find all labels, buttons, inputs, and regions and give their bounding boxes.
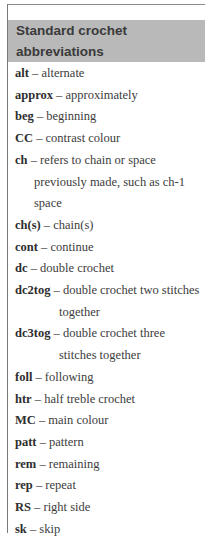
abbreviation: ch (15, 153, 28, 167)
definition: main colour (48, 413, 108, 427)
separator: – (37, 109, 43, 123)
list-item: dc2tog – double crochet two stitches tog… (15, 280, 203, 323)
definition: skip (39, 522, 60, 536)
abbreviation: dc (15, 261, 28, 275)
separator: – (44, 218, 50, 232)
abbreviation: CC (15, 131, 33, 145)
list-item: CC – contrast colour (15, 128, 203, 150)
list-item: sk – skip (15, 519, 203, 540)
list-item: htr – half treble crochet (15, 389, 203, 411)
abbreviation: dc3tog (15, 326, 50, 340)
definition: double crochet two stitches (63, 283, 199, 297)
section-title: Standard crochet abbreviations (16, 20, 166, 62)
abbreviation: rep (15, 478, 33, 492)
abbreviation: htr (15, 392, 32, 406)
top-rule (7, 4, 205, 5)
list-item: MC – main colour (15, 410, 203, 432)
definition-continuation: previously made, such as ch-1 (15, 172, 203, 194)
separator: – (41, 240, 47, 254)
list-item: dc3tog – double crochet three stitches t… (15, 323, 203, 366)
definition: half treble crochet (44, 392, 135, 406)
definition: alternate (41, 66, 84, 80)
definition: beginning (46, 109, 96, 123)
separator: – (31, 153, 37, 167)
list-item: ch(s) – chain(s) (15, 215, 203, 237)
list-item: ch – refers to chain or space previously… (15, 150, 203, 215)
definition: right side (43, 500, 90, 514)
separator: – (56, 88, 62, 102)
list-item: approx – approximately (15, 85, 203, 107)
definition: chain(s) (53, 218, 93, 232)
abbreviation: approx (15, 88, 53, 102)
definition: refers to chain or space (40, 153, 156, 167)
separator: – (35, 392, 41, 406)
abbreviation: ch(s) (15, 218, 41, 232)
abbreviation-list: alt – alternate approx – approximately b… (15, 63, 203, 540)
list-item: rem – remaining (15, 454, 203, 476)
separator: – (31, 261, 37, 275)
list-item: cont – continue (15, 237, 203, 259)
list-item: beg – beginning (15, 106, 203, 128)
list-item: foll – following (15, 367, 203, 389)
list-item: patt – pattern (15, 432, 203, 454)
definition: following (45, 370, 94, 384)
list-item: dc – double crochet (15, 258, 203, 280)
separator: – (30, 522, 36, 536)
abbreviation: patt (15, 435, 37, 449)
abbreviation: foll (15, 370, 32, 384)
separator: – (34, 500, 40, 514)
definition: approximately (65, 88, 137, 102)
abbreviation: MC (15, 413, 36, 427)
abbreviation: beg (15, 109, 34, 123)
separator: – (36, 131, 42, 145)
definition-continuation: space (15, 193, 203, 215)
definition-continuation: stitches together (15, 345, 203, 367)
separator: – (40, 435, 46, 449)
abbreviation: RS (15, 500, 31, 514)
list-item: rep – repeat (15, 475, 203, 497)
separator: – (39, 413, 45, 427)
definition: contrast colour (46, 131, 121, 145)
list-item: alt – alternate (15, 63, 203, 85)
separator: – (54, 326, 60, 340)
definition: repeat (45, 478, 76, 492)
definition: pattern (49, 435, 84, 449)
separator: – (54, 283, 60, 297)
separator: – (36, 478, 42, 492)
definition-continuation: together (15, 302, 203, 324)
separator: – (39, 457, 45, 471)
list-item: RS – right side (15, 497, 203, 519)
section-header: Standard crochet abbreviations (8, 20, 205, 62)
abbreviation: alt (15, 66, 29, 80)
definition: continue (50, 240, 93, 254)
abbreviation: cont (15, 240, 38, 254)
abbreviation: sk (15, 522, 27, 536)
abbreviation: rem (15, 457, 36, 471)
abbreviation: dc2tog (15, 283, 50, 297)
separator: – (35, 370, 41, 384)
left-rule (7, 4, 8, 533)
definition: remaining (49, 457, 100, 471)
definition: double crochet three (63, 326, 165, 340)
definition: double crochet (40, 261, 114, 275)
separator: – (32, 66, 38, 80)
